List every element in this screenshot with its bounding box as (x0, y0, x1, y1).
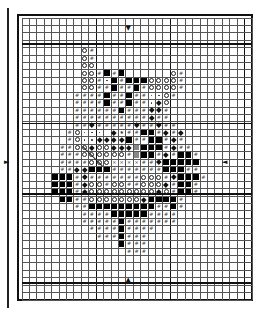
stitch-cell-hash: # (88, 225, 95, 232)
filled-square-icon (163, 197, 169, 203)
stitch-cell-filled-square (133, 203, 140, 210)
hash-icon: # (134, 93, 138, 98)
stitch-cell-filled-square (125, 210, 132, 217)
stitch-cell-open-circle (111, 151, 118, 158)
stitch-cell-filled-square (118, 107, 125, 114)
hash-icon: # (105, 212, 109, 217)
diamond-icon (104, 137, 109, 142)
stitch-cell-hash: # (162, 218, 169, 225)
stitch-cell-filled-square (140, 203, 147, 210)
open-circle-icon (141, 189, 146, 194)
hash-icon: # (194, 167, 198, 172)
filled-square-icon (186, 182, 192, 188)
filled-square-icon (186, 159, 192, 165)
stitch-cell-diamond (111, 136, 118, 143)
hash-icon: # (97, 71, 101, 76)
stitch-cell-filled-square (118, 210, 125, 217)
hash-icon: # (164, 108, 168, 113)
hash-icon: # (112, 108, 116, 113)
filled-square-icon (89, 204, 95, 210)
stitch-cell-hash: # (177, 196, 184, 203)
stitch-cell-hash: # (177, 203, 184, 210)
center-arrow-right-icon: ◄ (222, 159, 227, 166)
hash-icon: # (112, 93, 116, 98)
stitch-cell-hash: # (192, 166, 199, 173)
center-arrow-top-icon: ▼ (126, 25, 131, 32)
stitch-cell-open-circle (133, 196, 140, 203)
stitch-cell-diamond (177, 129, 184, 136)
open-circle-icon (156, 78, 161, 83)
filled-square-icon (141, 145, 147, 151)
stitch-cell-hash: # (170, 92, 177, 99)
stitch-cell-filled-square (125, 136, 132, 143)
hash-icon: # (97, 85, 101, 90)
stitch-cell-hash: # (66, 159, 73, 166)
hash-icon: # (142, 85, 146, 90)
filled-square-icon (149, 137, 155, 143)
stitch-cell-hash: # (88, 218, 95, 225)
stitch-cell-hash: # (81, 121, 88, 128)
stitch-cell-hash: # (177, 84, 184, 91)
stitch-cell-filled-square (125, 77, 132, 84)
center-arrow-bottom-icon: ▲ (126, 277, 131, 284)
stitch-cell-filled-square (133, 84, 140, 91)
stitch-cell-open-circle (118, 151, 125, 158)
hash-icon: # (201, 175, 205, 180)
open-circle-icon (89, 197, 94, 202)
filled-square-icon (141, 130, 147, 136)
stitch-cell-hash: # (133, 233, 140, 240)
stitch-cell-hash: # (125, 233, 132, 240)
stitch-cell-filled-square (125, 203, 132, 210)
stitch-cell-hash: # (140, 84, 147, 91)
hash-icon: # (127, 85, 131, 90)
stitch-cell-hash: # (140, 92, 147, 99)
hash-icon: # (90, 93, 94, 98)
stitch-cell-hash: # (88, 55, 95, 62)
stitch-cell-hash: # (66, 136, 73, 143)
hash-icon: # (97, 175, 101, 180)
stitch-cell-hash: # (111, 92, 118, 99)
stitch-cell-hash: # (111, 121, 118, 128)
stitch-cell-hash: # (96, 77, 103, 84)
hash-icon: # (134, 175, 138, 180)
hash-icon: # (75, 100, 79, 105)
filled-square-icon (141, 152, 147, 158)
hash-icon: # (60, 145, 64, 150)
hash-icon: # (179, 197, 183, 202)
diamond-icon (82, 189, 87, 194)
stitch-cell-hash: # (66, 129, 73, 136)
open-circle-icon (97, 152, 102, 157)
stitch-cell-filled-square (88, 166, 95, 173)
filled-square-icon (156, 145, 162, 151)
stitch-cell-hash: # (125, 181, 132, 188)
stitch-cell-hash: # (155, 218, 162, 225)
hash-icon: # (179, 85, 183, 90)
open-circle-icon (75, 145, 80, 150)
stitch-cell-filled-square (177, 188, 184, 195)
filled-square-icon (67, 197, 73, 203)
hash-icon: # (90, 56, 94, 61)
stitch-cell-filled-square (185, 181, 192, 188)
open-circle-icon (164, 78, 169, 83)
open-circle-icon (164, 93, 169, 98)
filled-square-icon (178, 152, 184, 158)
stitch-cell-filled-square (96, 203, 103, 210)
open-circle-icon (171, 78, 176, 83)
hash-icon: # (164, 212, 168, 217)
open-circle-icon (82, 71, 87, 76)
open-circle-icon (119, 182, 124, 187)
stitch-cell-hash: # (148, 218, 155, 225)
open-circle-icon (75, 130, 80, 135)
filled-square-icon (178, 182, 184, 188)
stitch-cell-hash: # (88, 99, 95, 106)
stitch-cell-diamond (88, 144, 95, 151)
stitch-cell-open-circle (103, 188, 110, 195)
stitch-cell-filled-square (111, 210, 118, 217)
hash-icon: # (97, 212, 101, 217)
hash-icon: # (112, 234, 116, 239)
stitch-cell-filled-square (140, 77, 147, 84)
stitch-cell-open-circle (125, 196, 132, 203)
stitch-cell-hash: # (59, 159, 66, 166)
stitch-cell-hash: # (140, 121, 147, 128)
stitch-cell-filled-square (155, 196, 162, 203)
